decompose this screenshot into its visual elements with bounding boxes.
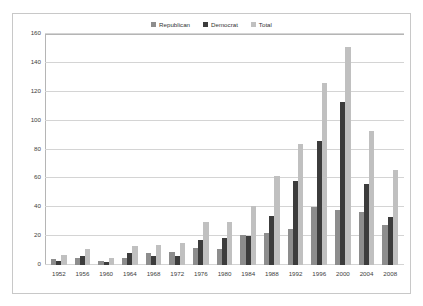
x-axis-tick-label: 1956 bbox=[76, 271, 90, 277]
bar-group: 1968 bbox=[142, 34, 166, 265]
bar-total bbox=[274, 176, 279, 266]
bar-group: 1952 bbox=[47, 34, 71, 265]
legend-swatch-total-icon bbox=[251, 22, 256, 27]
bar-group: 2008 bbox=[378, 34, 402, 265]
legend-label-total: Total bbox=[259, 22, 272, 28]
y-axis-tick-label: 80 bbox=[34, 145, 41, 151]
bar-group: 2000 bbox=[331, 34, 355, 265]
y-axis-tick-label: 20 bbox=[34, 232, 41, 238]
y-axis-tick-label: 60 bbox=[34, 174, 41, 180]
bar-total bbox=[322, 83, 327, 265]
legend-item-total: Total bbox=[251, 22, 272, 28]
bar-total bbox=[393, 170, 398, 265]
x-axis-tick-label: 1992 bbox=[289, 271, 303, 277]
y-axis-tick-label: 0 bbox=[38, 261, 41, 267]
chart-legend: Republican Democrat Total bbox=[13, 19, 410, 31]
x-axis-tick-label: 1972 bbox=[170, 271, 184, 277]
y-axis-tick-label: 40 bbox=[34, 203, 41, 209]
bar-group: 1976 bbox=[189, 34, 213, 265]
x-axis-tick-label: 2004 bbox=[360, 271, 374, 277]
x-axis-tick-label: 2000 bbox=[336, 271, 350, 277]
bar-total bbox=[61, 255, 66, 265]
x-axis-tick-label: 1964 bbox=[123, 271, 137, 277]
x-axis-tick-label: 1976 bbox=[194, 271, 208, 277]
chart-figure: Republican Democrat Total 16014012010080… bbox=[12, 13, 411, 294]
bar-group: 1992 bbox=[284, 34, 308, 265]
bar-total bbox=[345, 47, 350, 265]
bar-total bbox=[180, 243, 185, 265]
legend-label-republican: Republican bbox=[159, 22, 190, 28]
x-axis-tick-label: 1980 bbox=[218, 271, 232, 277]
bar-group: 1984 bbox=[236, 34, 260, 265]
x-axis-tick-label: 1988 bbox=[265, 271, 279, 277]
bar-total bbox=[369, 131, 374, 265]
bar-total bbox=[85, 249, 90, 265]
bar-group: 1972 bbox=[165, 34, 189, 265]
bar-total bbox=[109, 258, 114, 265]
legend-label-democrat: Democrat bbox=[211, 22, 238, 28]
bar-total bbox=[132, 246, 137, 265]
legend-swatch-republican-icon bbox=[151, 22, 156, 27]
bar-total bbox=[227, 222, 232, 265]
bar-total bbox=[251, 206, 256, 265]
y-axis-tick-label: 120 bbox=[31, 88, 41, 94]
x-axis-tick-label: 1984 bbox=[241, 271, 255, 277]
y-axis-tick-label: 140 bbox=[31, 59, 41, 65]
legend-item-republican: Republican bbox=[151, 22, 190, 28]
bar-group: 1980 bbox=[213, 34, 237, 265]
bar-total bbox=[298, 144, 303, 265]
bar-group: 1960 bbox=[94, 34, 118, 265]
bar-total bbox=[203, 222, 208, 265]
x-axis-tick-label: 2008 bbox=[383, 271, 397, 277]
x-axis-tick-label: 1968 bbox=[147, 271, 161, 277]
bar-group: 1964 bbox=[118, 34, 142, 265]
bar-group: 2004 bbox=[355, 34, 379, 265]
y-axis-tick-label: 100 bbox=[31, 117, 41, 123]
x-axis-tick-label: 1960 bbox=[99, 271, 113, 277]
plot-area: 160140120100806040200 195219561960196419… bbox=[45, 34, 404, 265]
x-axis-tick-label: 1996 bbox=[312, 271, 326, 277]
legend-swatch-democrat-icon bbox=[203, 22, 208, 27]
x-axis-tick-label: 1952 bbox=[52, 271, 66, 277]
y-axis-tick-label: 160 bbox=[31, 30, 41, 36]
bars-layer: 1952195619601964196819721976198019841988… bbox=[45, 34, 404, 265]
bar-group: 1996 bbox=[307, 34, 331, 265]
legend-item-democrat: Democrat bbox=[203, 22, 238, 28]
bar-total bbox=[156, 245, 161, 265]
bar-group: 1988 bbox=[260, 34, 284, 265]
bar-group: 1956 bbox=[71, 34, 95, 265]
